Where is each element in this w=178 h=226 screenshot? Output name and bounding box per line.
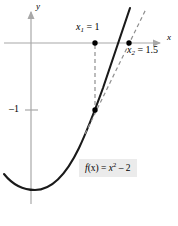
- formula-rest: – 2: [116, 163, 130, 173]
- point-on-curve-at-x1: [92, 107, 97, 112]
- formula-arg: (x): [88, 163, 99, 173]
- y-axis-label: y: [36, 2, 40, 11]
- annotation-x1: x1 = 1: [76, 22, 100, 34]
- annotation-x1-value: = 1: [84, 21, 100, 32]
- point-x1-on-axis: [92, 40, 97, 45]
- annotation-x2: x2 = 1.5: [127, 45, 158, 57]
- annotation-x2-value: = 1.5: [135, 44, 158, 55]
- figure-container: y x –1 x1 = 1 x2 = 1.5 f(x) = x2 – 2: [0, 0, 178, 226]
- annotation-function-formula: f(x) = x2 – 2: [79, 159, 137, 177]
- formula-equals: =: [99, 163, 109, 173]
- y-tick-label-minus-one: –1: [9, 104, 19, 114]
- x-axis-label: x: [167, 33, 171, 42]
